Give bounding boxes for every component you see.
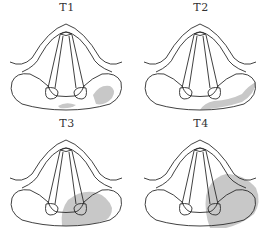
- panel-t4: T4: [134, 116, 268, 232]
- larynx-drawing-icon: [134, 0, 268, 116]
- panel-t3: T3: [0, 116, 134, 232]
- panel-t2: T2: [134, 0, 268, 116]
- panel-t1: T1: [0, 0, 134, 116]
- tumor-stage-diagram: T1 T2: [0, 0, 268, 233]
- larynx-drawing-icon: [134, 116, 268, 232]
- larynx-drawing-icon: [0, 116, 134, 232]
- larynx-drawing-icon: [0, 0, 134, 116]
